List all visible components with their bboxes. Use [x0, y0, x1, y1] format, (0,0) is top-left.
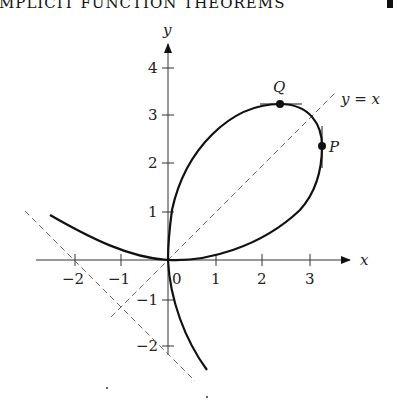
x-tick-label: −2 — [62, 270, 84, 288]
x-tick-label: 3 — [305, 270, 315, 288]
point-p — [318, 142, 326, 150]
folium-figure: −2 −1 0 1 2 3 4 3 2 1 −1 −2 x y y = x Q … — [0, 0, 397, 406]
point-q-label: Q — [273, 78, 285, 96]
x-tick-label: 2 — [257, 270, 267, 288]
y-tick-label: 1 — [148, 203, 158, 221]
x-axis-label: x — [360, 251, 369, 269]
y-tick-label: −1 — [136, 291, 158, 309]
y-tick-label: 4 — [148, 59, 158, 77]
x-tick-label: 1 — [211, 270, 221, 288]
y-tick-label: 3 — [148, 106, 158, 124]
x-tick-label: 0 — [172, 270, 182, 288]
x-tick-label: −1 — [108, 270, 130, 288]
y-tick-label: −2 — [136, 337, 158, 355]
y-tick-label: 2 — [148, 154, 158, 172]
line-y-equals-x — [111, 93, 335, 317]
line-label-y-equals-x: y = x — [340, 90, 381, 108]
print-speck — [206, 396, 208, 398]
point-q — [276, 100, 284, 108]
y-axis-label: y — [162, 21, 172, 39]
point-p-label: P — [328, 138, 340, 156]
print-speck — [106, 387, 108, 389]
